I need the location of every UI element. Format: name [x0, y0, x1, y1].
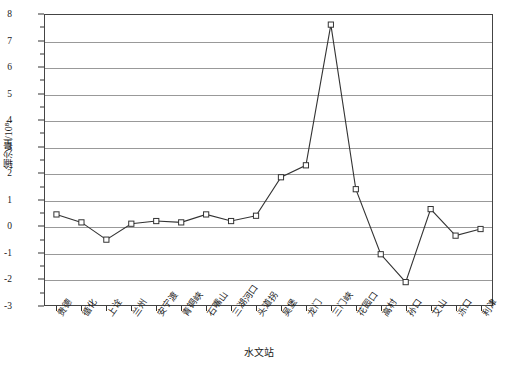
data-point-marker — [303, 163, 308, 168]
y-tick-label: -2 — [0, 274, 12, 284]
data-point-marker — [478, 226, 483, 231]
y-tick-label: 0 — [0, 221, 12, 231]
y-tick-label: 7 — [0, 36, 12, 46]
data-point-marker — [253, 213, 258, 218]
data-point-marker — [378, 252, 383, 257]
data-point-marker — [129, 221, 134, 226]
y-tick-label: 5 — [0, 89, 12, 99]
data-point-marker — [79, 220, 84, 225]
y-axis: -3-2-1012345678 — [0, 0, 44, 366]
data-point-marker — [204, 212, 209, 217]
y-tick-label: -3 — [0, 301, 12, 311]
data-point-marker — [179, 220, 184, 225]
data-series-line — [44, 14, 493, 306]
data-point-marker — [328, 22, 333, 27]
data-point-marker — [353, 187, 358, 192]
data-point-marker — [228, 218, 233, 223]
y-axis-title: 输沙量/10⁸t — [1, 120, 16, 169]
series-polyline — [56, 25, 480, 282]
y-tick-label: -1 — [0, 248, 12, 258]
y-tick-label: 8 — [0, 9, 12, 19]
chart-container: -3-2-1012345678 输沙量/10⁸t 贵德循化上诠兰州安宁渡青铜峡石… — [0, 0, 517, 366]
y-tick-label: 1 — [0, 195, 12, 205]
data-point-marker — [54, 212, 59, 217]
data-point-marker — [278, 175, 283, 180]
data-point-marker — [428, 207, 433, 212]
data-point-marker — [403, 280, 408, 285]
data-point-marker — [104, 237, 109, 242]
data-point-marker — [453, 233, 458, 238]
y-tick-label: 6 — [0, 62, 12, 72]
y-tick-label: 2 — [0, 168, 12, 178]
data-point-marker — [154, 218, 159, 223]
x-axis-title: 水文站 — [0, 344, 517, 359]
